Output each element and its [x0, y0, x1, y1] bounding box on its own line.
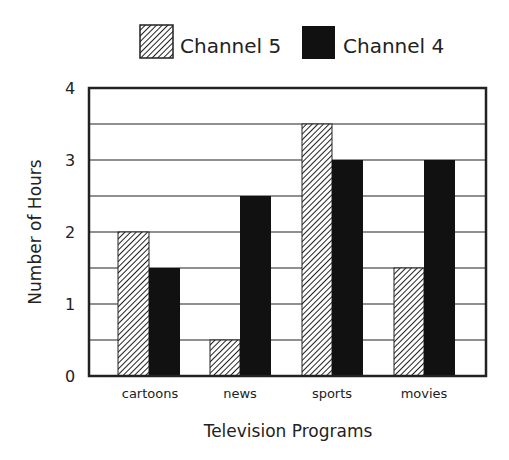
y-tick-3: 3 — [65, 151, 75, 170]
x-tick-cartoons: cartoons — [122, 386, 179, 401]
legend-label-channel4: Channel 4 — [343, 34, 444, 58]
y-tick-2: 2 — [65, 223, 75, 242]
x-axis-ticks: cartoons news sports movies — [122, 386, 448, 401]
x-tick-sports: sports — [312, 386, 352, 401]
x-tick-movies: movies — [401, 386, 448, 401]
legend: Channel 5 Channel 4 — [140, 25, 444, 59]
bar-movies-channel5 — [394, 268, 424, 376]
y-tick-0: 0 — [65, 367, 75, 386]
y-axis-label: Number of Hours — [25, 159, 45, 304]
bar-cartoons-channel4 — [149, 268, 180, 376]
y-axis-ticks: 0 1 2 3 4 — [65, 79, 75, 386]
bar-news-channel5 — [210, 340, 240, 376]
x-tick-news: news — [223, 386, 257, 401]
legend-swatch-channel4 — [302, 26, 335, 59]
bar-news-channel4 — [240, 196, 271, 376]
bar-movies-channel4 — [424, 160, 455, 376]
y-tick-4: 4 — [65, 79, 75, 98]
x-axis-label: Television Programs — [203, 421, 373, 441]
bar-sports-channel4 — [332, 160, 363, 376]
bar-chart: Channel 5 Channel 4 0 1 2 3 4 Number of — [0, 0, 509, 460]
legend-swatch-channel5 — [140, 25, 173, 58]
y-tick-1: 1 — [65, 295, 75, 314]
legend-label-channel5: Channel 5 — [180, 34, 281, 58]
bar-cartoons-channel5 — [118, 232, 149, 376]
bar-sports-channel5 — [302, 124, 332, 376]
